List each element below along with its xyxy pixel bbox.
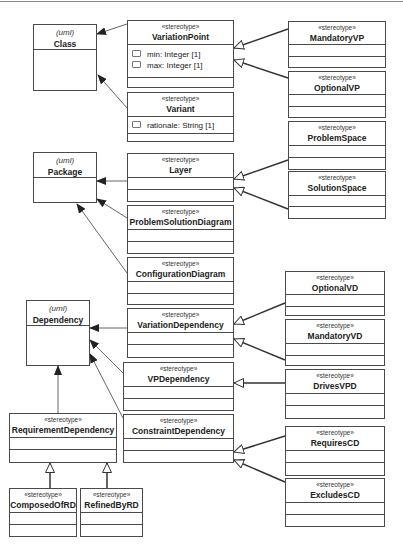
stereotype-keyword: «stereotype»	[128, 156, 233, 164]
mandatoryvd-name: MandatoryVD	[286, 330, 384, 342]
stereotype-keyword: «stereotype»	[286, 481, 384, 489]
attribute-icon	[132, 121, 141, 128]
stereotype-optionalvd[interactable]: «stereotype» OptionalVD	[285, 271, 385, 316]
stereotype-keyword: «stereotype»	[128, 23, 233, 31]
stereotype-refinedbyrd[interactable]: «stereotype» RefinedByRD	[80, 488, 143, 537]
stereotype-mandatoryvd[interactable]: «stereotype» MandatoryVD	[285, 319, 385, 366]
dependency-name: Dependency	[27, 314, 89, 326]
class-name: Class	[34, 38, 96, 50]
stereotype-variant[interactable]: «stereotype» Variant rationale: String […	[127, 92, 234, 142]
extension-vpdep-dependency	[90, 340, 123, 373]
optionalvp-header: «stereotype» OptionalVP	[289, 72, 385, 95]
stereotype-keyword: «stereotype»	[289, 74, 385, 82]
attribute-min: min: Integer [1]	[128, 49, 233, 60]
constraintdependency-header: «stereotype» ConstraintDependency	[124, 415, 233, 439]
attribute-compartment	[289, 146, 385, 158]
stereotype-variationdependency[interactable]: «stereotype» VariationDependency	[127, 308, 234, 358]
solutionspace-header: «stereotype» SolutionSpace	[289, 172, 385, 196]
dependency-header: (uml) Dependency	[27, 301, 89, 326]
operation-compartment	[286, 307, 384, 315]
operation-compartment	[10, 450, 116, 462]
stereotype-composedofrd[interactable]: «stereotype» ComposedOfRD	[9, 488, 77, 537]
stereotype-requirementdependency[interactable]: «stereotype» RequirementDependency	[9, 413, 117, 463]
stereotype-keyword: «stereotype»	[10, 491, 76, 499]
variationpoint-name: VariationPoint	[128, 31, 233, 43]
attribute-compartment: min: Integer [1] max: Integer [1]	[128, 45, 233, 78]
refinedbyrd-name: RefinedByRD	[81, 499, 142, 511]
stereotype-keyword: «stereotype»	[10, 416, 116, 424]
extension-variant-class	[98, 75, 127, 108]
attribute-icon	[132, 50, 141, 57]
drivesvpd-header: «stereotype» DrivesVPD	[286, 370, 384, 394]
stereotype-constraintdependency[interactable]: «stereotype» ConstraintDependency	[123, 414, 234, 463]
requirescd-header: «stereotype» RequiresCD	[286, 427, 384, 451]
operation-compartment	[128, 294, 233, 304]
generalization-mandatoryvp	[234, 29, 288, 48]
constraintdependency-name: ConstraintDependency	[124, 425, 233, 437]
top-border-line	[0, 1, 403, 2]
attribute-rationale: rationale: String [1]	[128, 120, 233, 131]
stereotype-keyword: «stereotype»	[124, 365, 233, 373]
stereotype-drivesvpd[interactable]: «stereotype» DrivesVPD	[285, 369, 385, 419]
attribute-compartment	[10, 438, 116, 450]
configdiagram-header: «stereotype» ConfigurationDiagram	[128, 258, 233, 282]
uml-keyword: (uml)	[34, 155, 96, 166]
excludescd-header: «stereotype» ExcludesCD	[286, 479, 384, 503]
stereotype-layer[interactable]: «stereotype» Layer	[127, 153, 234, 202]
drivesvpd-name: DrivesVPD	[286, 380, 384, 392]
stereotype-optionalvp[interactable]: «stereotype» OptionalVP	[288, 71, 386, 118]
attribute-compartment	[286, 451, 384, 463]
operation-compartment	[289, 57, 385, 67]
operation-compartment	[289, 107, 385, 117]
optionalvd-header: «stereotype» OptionalVD	[286, 272, 384, 295]
variationpoint-header: «stereotype» VariationPoint	[128, 21, 233, 45]
stereotype-keyword: «stereotype»	[286, 322, 384, 330]
stereotype-keyword: «stereotype»	[289, 124, 385, 132]
metaclass-dependency[interactable]: (uml) Dependency	[26, 300, 90, 366]
attribute-compartment	[128, 282, 233, 294]
operation-compartment	[289, 158, 385, 169]
refinedbyrd-header: «stereotype» RefinedByRD	[81, 489, 142, 513]
stereotype-keyword: «stereotype»	[289, 24, 385, 32]
attribute-compartment	[289, 45, 385, 57]
metaclass-package[interactable]: (uml) Package	[33, 152, 97, 203]
stereotype-configurationdiagram[interactable]: «stereotype» ConfigurationDiagram	[127, 257, 234, 305]
stereotype-keyword: «stereotype»	[128, 311, 233, 319]
stereotype-problemspace[interactable]: «stereotype» ProblemSpace	[288, 121, 386, 170]
generalization-optionalvp	[234, 60, 288, 78]
generalization-optionalvd	[234, 303, 285, 324]
problemspace-header: «stereotype» ProblemSpace	[289, 122, 385, 146]
attribute-compartment	[10, 513, 76, 525]
extension-configdiagram-package	[77, 204, 127, 273]
stereotype-keyword: «stereotype»	[81, 491, 142, 499]
operation-compartment	[286, 406, 384, 418]
operation-compartment	[289, 207, 385, 218]
stereotype-solutionspace[interactable]: «stereotype» SolutionSpace	[288, 171, 386, 219]
operation-compartment	[124, 451, 233, 462]
stereotype-mandatoryvp[interactable]: «stereotype» MandatoryVP	[288, 21, 386, 68]
stereotype-keyword: «stereotype»	[289, 174, 385, 182]
stereotype-requirescd[interactable]: «stereotype» RequiresCD	[285, 426, 385, 476]
stereotype-problemsolutiondiagram[interactable]: «stereotype» ProblemSolutionDiagram	[127, 205, 234, 254]
requirementdependency-header: «stereotype» RequirementDependency	[10, 414, 116, 438]
stereotype-variationpoint[interactable]: «stereotype» VariationPoint min: Integer…	[127, 20, 234, 88]
mandatoryvp-header: «stereotype» MandatoryVP	[289, 22, 385, 45]
attribute-compartment	[286, 503, 384, 515]
generalization-excludescd	[234, 460, 285, 482]
stereotype-vpdependency[interactable]: «stereotype» VPDependency	[123, 362, 234, 411]
operation-compartment	[128, 242, 233, 253]
attribute-compartment	[124, 387, 233, 399]
metaclass-class[interactable]: (uml) Class	[33, 24, 97, 91]
generalization-solutionspace	[234, 188, 288, 209]
variant-header: «stereotype» Variant	[128, 93, 233, 117]
stereotype-keyword: «stereotype»	[128, 95, 233, 103]
uml-keyword: (uml)	[27, 303, 89, 314]
vpdependency-header: «stereotype» VPDependency	[124, 363, 233, 387]
stereotype-keyword: «stereotype»	[286, 429, 384, 437]
attribute-compartment	[128, 230, 233, 242]
extension-constraintdep-dependency	[90, 354, 123, 418]
attribute-compartment	[128, 178, 233, 190]
stereotype-excludescd[interactable]: «stereotype» ExcludesCD	[285, 478, 385, 527]
configdiagram-name: ConfigurationDiagram	[128, 268, 233, 280]
uml-keyword: (uml)	[34, 27, 96, 38]
